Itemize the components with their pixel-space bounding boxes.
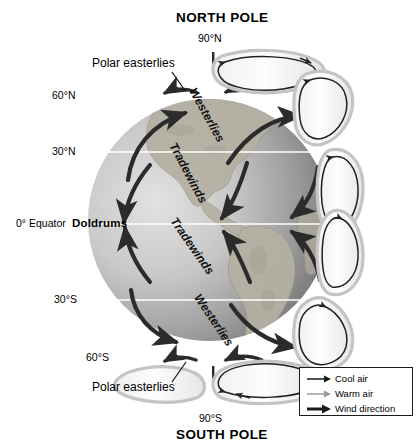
legend-item-wind-direction: Wind direction (306, 401, 412, 416)
diagram-canvas: NORTH POLE 90°N 90°S SOUTH POLE 60°N 30°… (0, 0, 420, 444)
legend-label-warm-air: Warm air (335, 388, 373, 399)
cell-ferrel-north (294, 71, 353, 145)
north-pole-latitude: 90°N (198, 33, 221, 44)
annotation-doldrums: Doldrums (72, 218, 127, 230)
latitude-label-60n: 60°N (52, 90, 75, 101)
wind-direction-arrow-icon (306, 403, 332, 415)
south-pole-title: SOUTH POLE (176, 428, 268, 442)
north-pole-title: NORTH POLE (176, 11, 269, 25)
south-pole-latitude: 90°S (199, 413, 222, 424)
latitude-label-30s: 30°S (54, 294, 77, 305)
legend-label-cool-air: Cool air (335, 373, 368, 384)
legend: Cool air Warm air Wind direction (299, 367, 413, 416)
legend-item-cool-air: Cool air (306, 371, 412, 386)
legend-label-wind-direction: Wind direction (335, 403, 395, 414)
cell-ferrel-south (294, 298, 353, 371)
cell-hadley-south (317, 210, 363, 294)
latitude-label-30n: 30°N (52, 146, 75, 157)
cool-air-arrow-icon (306, 373, 332, 385)
warm-air-arrow-icon (306, 388, 332, 400)
latitude-label-equator: 0° Equator (16, 218, 66, 229)
annotation-polar-easterlies-south: Polar easterlies (92, 381, 175, 393)
annotation-polar-easterlies-north: Polar easterlies (92, 57, 175, 69)
latitude-label-60s: 60°S (86, 352, 109, 363)
legend-item-warm-air: Warm air (306, 386, 412, 401)
